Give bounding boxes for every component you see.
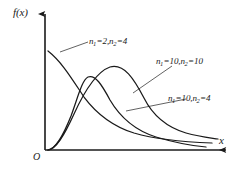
curve-2-eq-1: =10, bbox=[164, 56, 181, 66]
curve-3-sub-1: 1 bbox=[172, 97, 175, 104]
curve-1-eq-1: =2, bbox=[97, 36, 110, 46]
curve-2-eq-2: =10 bbox=[188, 56, 203, 66]
x-axis-label: x bbox=[219, 135, 224, 146]
curve-3-sub-2: 2 bbox=[197, 97, 200, 104]
y-axis-label: f(x) bbox=[13, 7, 28, 18]
curve-2-sub-2: 2 bbox=[185, 60, 188, 67]
curve-2-sub-1: 1 bbox=[160, 60, 163, 67]
curve-label-n1-10-n2-10: n1=10,n2=10 bbox=[156, 57, 203, 66]
origin-label: O bbox=[33, 152, 40, 162]
curve-3-eq-1: =10, bbox=[176, 93, 193, 103]
curve-3-eq-2: =4 bbox=[200, 93, 210, 103]
curve-label-n1-2-n2-4: n1=2,n2=4 bbox=[89, 37, 127, 46]
curve-1-eq-2: =4 bbox=[117, 36, 127, 46]
f-distribution-figure: f(x) x O n1=2,n2=4 n1=10,n2=10 n1=10,n2=… bbox=[0, 0, 247, 177]
curve-1-sub-2: 2 bbox=[113, 40, 116, 47]
leader-line-curve-1 bbox=[60, 42, 88, 52]
curve-n1-10-n2-4 bbox=[48, 77, 206, 150]
curve-label-n1-10-n2-4: n1=10,n2=4 bbox=[168, 94, 210, 103]
curve-1-sub-1: 1 bbox=[93, 40, 96, 47]
